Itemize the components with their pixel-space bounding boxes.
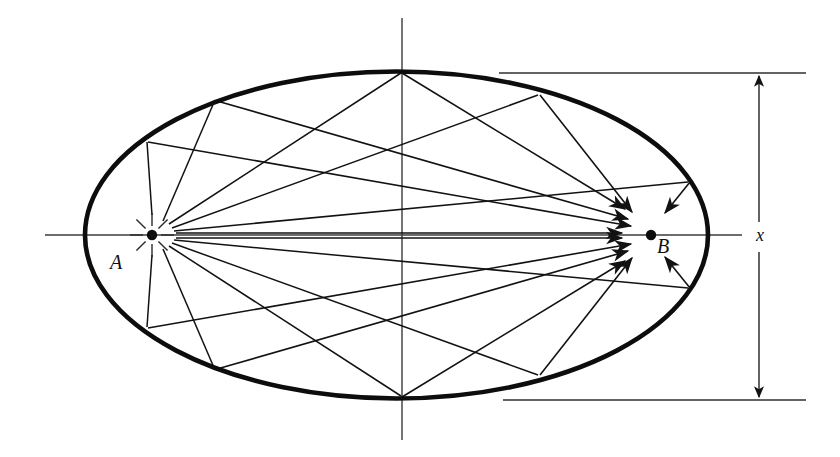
focus-point-b [646, 230, 656, 240]
reflected-ray [665, 257, 690, 288]
focus-label-a: A [110, 252, 122, 272]
incident-ray [147, 142, 152, 215]
figure-canvas: A B x [0, 0, 840, 457]
dimension-label-x: x [753, 224, 767, 246]
incident-ray [163, 249, 215, 370]
reflected-ray [217, 251, 628, 369]
reflected-ray [665, 182, 690, 213]
reflected-ray [402, 261, 625, 397]
incident-ray [174, 182, 688, 231]
reflected-ray [217, 101, 628, 219]
ellipse-reflection-diagram [0, 0, 840, 457]
incident-ray [169, 73, 401, 224]
reflected-ray [148, 142, 631, 226]
reflected-ray [402, 73, 625, 209]
incident-ray [163, 100, 215, 221]
incident-ray [172, 95, 538, 228]
focus-label-b: B [657, 236, 669, 256]
focus-point-a [147, 230, 157, 240]
incident-ray [147, 255, 152, 327]
axis-lines [45, 18, 742, 440]
incident-ray [172, 243, 538, 375]
incident-ray [169, 246, 401, 396]
reflected-ray [148, 244, 631, 328]
